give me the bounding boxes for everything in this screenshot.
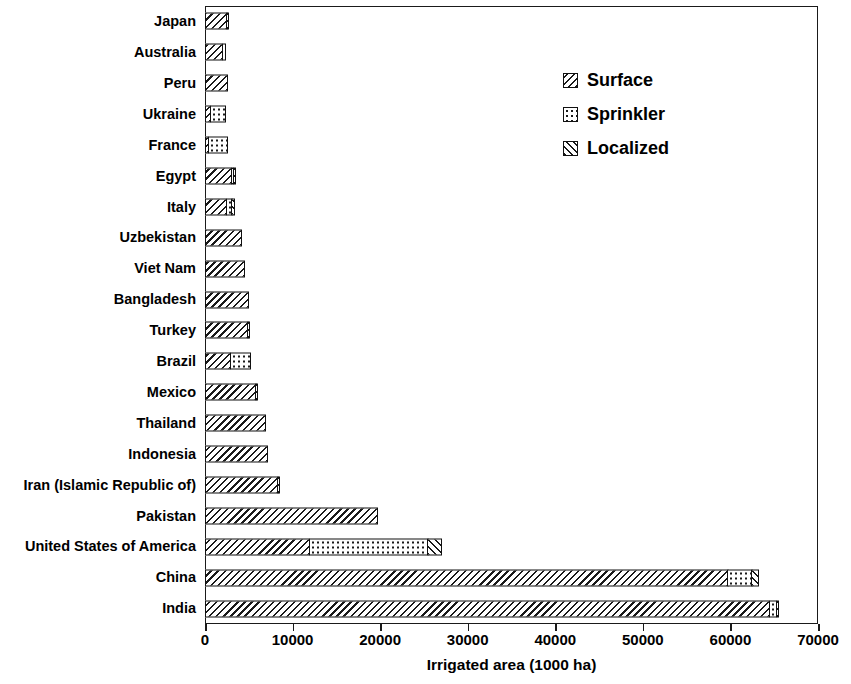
- bar-segment-localized: [226, 13, 229, 30]
- bar-stack: [205, 446, 267, 463]
- bar-row-viet-nam: Viet Nam: [205, 253, 818, 284]
- category-label: Viet Nam: [5, 261, 205, 276]
- bar-segment-localized: [427, 538, 442, 555]
- x-tick-label: 70000: [797, 632, 839, 647]
- bar-segment-sprinkler: [208, 137, 228, 154]
- x-tick-mark: [380, 624, 382, 631]
- bar-segment-localized: [233, 167, 236, 184]
- category-label: Egypt: [5, 169, 205, 184]
- bar-row-indonesia: Indonesia: [205, 439, 818, 470]
- category-label: Pakistan: [5, 509, 205, 524]
- bar-stack: [205, 353, 250, 370]
- bar-segment-surface: [205, 44, 223, 61]
- x-tick-label: 0: [201, 632, 209, 647]
- bar-row-iran-islamic-republic-of: Iran (Islamic Republic of): [205, 470, 818, 501]
- category-label: Ukraine: [5, 107, 205, 122]
- x-tick-label: 40000: [534, 632, 576, 647]
- legend-item-surface: Surface: [563, 63, 753, 97]
- bar-row-bangladesh: Bangladesh: [205, 284, 818, 315]
- x-tick-label: 20000: [359, 632, 401, 647]
- bar-stack: [205, 384, 257, 401]
- legend-label: Localized: [587, 139, 669, 157]
- x-axis-ticks: 010000200003000040000500006000070000: [205, 624, 818, 654]
- bar-segment-localized: [776, 600, 780, 617]
- bar-stack: [205, 476, 279, 493]
- category-label: India: [5, 601, 205, 616]
- category-label: Thailand: [5, 416, 205, 431]
- legend-item-sprinkler: Sprinkler: [563, 97, 753, 131]
- bar-stack: [205, 415, 265, 432]
- bar-segment-localized: [247, 322, 250, 339]
- legend-label: Sprinkler: [587, 105, 665, 123]
- bar-segment-localized: [277, 476, 280, 493]
- bar-row-brazil: Brazil: [205, 346, 818, 377]
- category-label: Mexico: [5, 385, 205, 400]
- x-tick-label: 30000: [447, 632, 489, 647]
- bar-row-pakistan: Pakistan: [205, 500, 818, 531]
- category-label: Australia: [5, 45, 205, 60]
- x-axis-title: Irrigated area (1000 ha): [205, 657, 818, 673]
- category-label: Turkey: [5, 323, 205, 338]
- bar-stack: [205, 260, 244, 277]
- category-label: Peru: [5, 76, 205, 91]
- bar-stack: [205, 322, 249, 339]
- bar-segment-surface: [205, 198, 227, 215]
- legend-swatch-surface: [563, 73, 578, 88]
- category-label: Indonesia: [5, 447, 205, 462]
- bar-stack: [205, 75, 226, 92]
- bar-row-turkey: Turkey: [205, 315, 818, 346]
- bar-segment-surface: [205, 229, 242, 246]
- bar-stack: [205, 137, 227, 154]
- bar-segment-surface: [205, 322, 249, 339]
- bar-segment-surface: [205, 600, 770, 617]
- x-tick-mark: [555, 624, 557, 631]
- bar-row-united-states-of-america: United States of America: [205, 531, 818, 562]
- bar-row-india: India: [205, 593, 818, 624]
- x-tick-label: 60000: [710, 632, 752, 647]
- category-label: Italy: [5, 200, 205, 215]
- bar-stack: [205, 198, 234, 215]
- category-label: Uzbekistan: [5, 230, 205, 245]
- bar-chart: JapanAustraliaPeruUkraineFranceEgyptItal…: [0, 0, 851, 684]
- bar-segment-surface: [205, 384, 257, 401]
- bar-row-mexico: Mexico: [205, 377, 818, 408]
- bar-segment-surface: [205, 446, 268, 463]
- x-tick-mark: [818, 624, 820, 631]
- bar-segment-surface: [205, 167, 232, 184]
- bar-segment-localized: [231, 198, 235, 215]
- bar-segment-surface: [205, 353, 231, 370]
- x-tick-label: 50000: [622, 632, 664, 647]
- category-label: China: [5, 570, 205, 585]
- chart-legend: SurfaceSprinklerLocalized: [563, 63, 753, 165]
- category-label: United States of America: [5, 539, 205, 554]
- category-label: Bangladesh: [5, 292, 205, 307]
- bar-segment-sprinkler: [727, 569, 752, 586]
- bar-stack: [205, 106, 225, 123]
- category-label: Japan: [5, 14, 205, 29]
- x-tick-mark: [293, 624, 295, 631]
- bar-segment-sprinkler: [230, 353, 251, 370]
- category-label: Brazil: [5, 354, 205, 369]
- bar-stack: [205, 44, 225, 61]
- bar-segment-surface: [205, 476, 279, 493]
- bar-row-uzbekistan: Uzbekistan: [205, 222, 818, 253]
- bar-segment-surface: [205, 75, 228, 92]
- category-label: France: [5, 138, 205, 153]
- bar-segment-sprinkler: [309, 538, 429, 555]
- bar-segment-surface: [205, 538, 310, 555]
- category-label: Iran (Islamic Republic of): [5, 478, 205, 493]
- bar-segment-sprinkler: [222, 44, 226, 61]
- bar-segment-sprinkler: [210, 106, 227, 123]
- bar-segment-surface: [205, 13, 228, 30]
- bar-segment-localized: [255, 384, 258, 401]
- bar-row-thailand: Thailand: [205, 408, 818, 439]
- bar-stack: [205, 229, 240, 246]
- x-tick-mark: [205, 624, 207, 631]
- bar-segment-surface: [205, 291, 249, 308]
- bar-stack: [205, 507, 376, 524]
- bar-stack: [205, 538, 441, 555]
- legend-swatch-sprinkler: [563, 107, 578, 122]
- legend-label: Surface: [587, 71, 653, 89]
- bar-stack: [205, 600, 778, 617]
- bar-row-egypt: Egypt: [205, 161, 818, 192]
